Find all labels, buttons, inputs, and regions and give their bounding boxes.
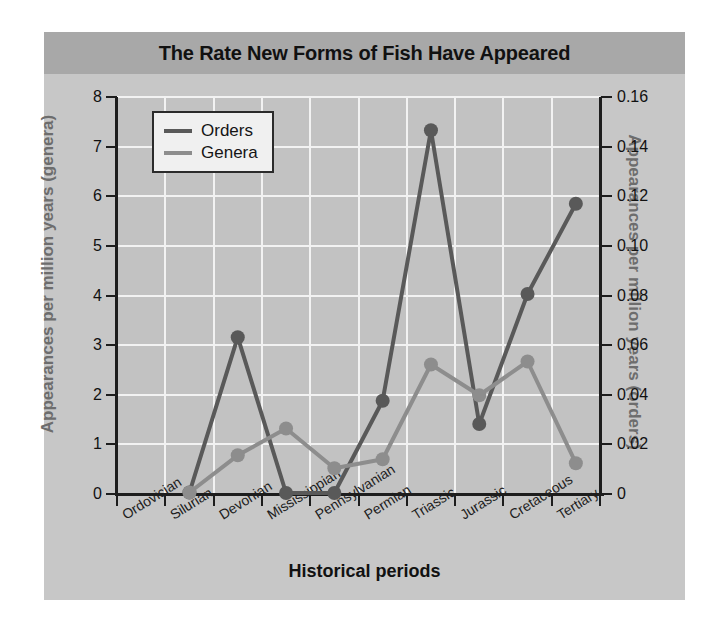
axis-tick	[106, 146, 117, 148]
chart-figure: The Rate New Forms of Fish Have Appeared…	[44, 32, 685, 600]
data-point-genera	[231, 448, 245, 462]
data-point-genera	[521, 355, 535, 369]
left-tick-label: 7	[62, 138, 102, 156]
data-point-orders	[521, 287, 535, 301]
data-point-orders	[231, 330, 245, 344]
x-axis-title: Historical periods	[44, 561, 685, 582]
axis-tick	[106, 443, 117, 445]
data-point-orders	[376, 394, 390, 408]
legend-swatch-genera	[164, 151, 192, 155]
legend-label-orders: Orders	[201, 121, 253, 141]
axis-tick	[106, 344, 117, 346]
right-tick-label: 0.02	[617, 435, 667, 453]
left-tick-label: 8	[62, 88, 102, 106]
right-tick-label: 0.16	[617, 88, 667, 106]
data-point-genera	[327, 461, 341, 475]
left-tick-label: 3	[62, 336, 102, 354]
plot-area: 012345678 00.020.040.060.080.100.120.140…	[117, 97, 600, 494]
data-point-genera	[182, 486, 196, 500]
data-point-genera	[376, 452, 390, 466]
axis-tick	[106, 394, 117, 396]
series-line-orders	[189, 130, 575, 493]
right-tick-label: 0.04	[617, 386, 667, 404]
right-tick-label: 0.08	[617, 287, 667, 305]
right-tick-label: 0.12	[617, 187, 667, 205]
axis-tick	[601, 146, 612, 148]
right-tick-label: 0.10	[617, 237, 667, 255]
left-axis-title: Appearances per million years (genera)	[38, 74, 58, 474]
axis-tick	[601, 245, 612, 247]
data-point-orders	[327, 486, 341, 500]
data-point-genera	[279, 421, 293, 435]
axis-tick	[106, 245, 117, 247]
right-tick-label: 0.06	[617, 336, 667, 354]
left-tick-label: 1	[62, 435, 102, 453]
axis-tick	[601, 295, 612, 297]
data-point-orders	[279, 486, 293, 500]
axis-tick	[601, 493, 612, 495]
data-point-genera	[472, 388, 486, 402]
axis-tick	[601, 195, 612, 197]
data-point-orders	[472, 417, 486, 431]
left-tick-label: 4	[62, 287, 102, 305]
axis-tick	[601, 443, 612, 445]
legend-item: Orders	[164, 120, 258, 142]
axis-tick	[106, 195, 117, 197]
data-point-orders	[569, 197, 583, 211]
chart-legend: Orders Genera	[152, 111, 274, 173]
data-point-genera	[569, 456, 583, 470]
left-tick-label: 5	[62, 237, 102, 255]
axis-tick	[106, 96, 117, 98]
data-point-orders	[424, 123, 438, 137]
legend-item: Genera	[164, 142, 258, 164]
legend-label-genera: Genera	[201, 143, 258, 163]
chart-title-band: The Rate New Forms of Fish Have Appeared	[44, 32, 685, 74]
right-tick-label: 0	[617, 485, 667, 503]
axis-tick	[601, 394, 612, 396]
legend-swatch-orders	[164, 129, 192, 133]
axis-tick	[601, 96, 612, 98]
left-tick-label: 0	[62, 485, 102, 503]
axis-tick	[106, 295, 117, 297]
axis-tick	[116, 495, 118, 506]
right-tick-label: 0.14	[617, 138, 667, 156]
left-tick-label: 6	[62, 187, 102, 205]
data-point-genera	[424, 357, 438, 371]
left-tick-label: 2	[62, 386, 102, 404]
series-line-genera	[189, 362, 575, 493]
axis-tick	[601, 344, 612, 346]
chart-title: The Rate New Forms of Fish Have Appeared	[159, 42, 570, 65]
